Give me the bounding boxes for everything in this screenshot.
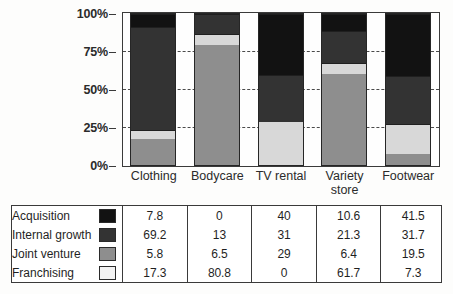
cell-tv-rental-joint-venture: 29 xyxy=(252,244,317,263)
y-axis-tick-label-50: 50% xyxy=(84,83,108,97)
cell-variety-store-franchising: 61.7 xyxy=(316,263,381,282)
series-label-internal-growth: Internal growth xyxy=(12,225,92,244)
cell-bodycare-acquisition: 0 xyxy=(187,206,252,225)
swatch-cell xyxy=(92,225,123,244)
cell-clothing-internal-growth: 69.2 xyxy=(123,225,188,244)
franchising-swatch xyxy=(99,266,116,280)
segment-internal-growth xyxy=(259,75,303,122)
segment-franchising xyxy=(131,139,175,165)
internal-growth-swatch xyxy=(99,228,116,242)
table-row: Internal growth69.2133121.331.7 xyxy=(12,225,445,244)
cell-footwear-franchising: 7.3 xyxy=(381,263,445,282)
cell-tv-rental-acquisition: 40 xyxy=(252,206,317,225)
segment-internal-growth xyxy=(195,14,239,34)
segment-acquisition xyxy=(386,14,430,76)
y-axis-tick-label-75: 75% xyxy=(84,45,108,59)
segment-acquisition xyxy=(131,14,175,27)
swatch-cell xyxy=(92,244,123,263)
bar-clothing xyxy=(130,13,176,166)
cell-variety-store-joint-venture: 6.4 xyxy=(316,244,381,263)
cell-bodycare-franchising: 80.8 xyxy=(187,263,252,282)
cell-tv-rental-franchising: 0 xyxy=(252,263,317,282)
cell-variety-store-internal-growth: 21.3 xyxy=(316,225,381,244)
cell-clothing-acquisition: 7.8 xyxy=(123,206,188,225)
series-label-acquisition: Acquisition xyxy=(12,206,92,225)
cell-footwear-joint-venture: 19.5 xyxy=(381,244,445,263)
segment-internal-growth xyxy=(131,27,175,130)
segment-joint-venture xyxy=(322,63,366,73)
cell-clothing-joint-venture: 5.8 xyxy=(123,244,188,263)
cell-tv-rental-internal-growth: 31 xyxy=(252,225,317,244)
segment-joint-venture xyxy=(259,122,303,165)
y-axis-tick-mark xyxy=(109,166,116,167)
joint-venture-swatch xyxy=(99,247,116,261)
data-table: Acquisition7.804010.641.5Internal growth… xyxy=(11,205,442,283)
bar-bodycare xyxy=(194,13,240,166)
chart-page: 100%75%50%25%0% ClothingBodycareTV renta… xyxy=(0,0,453,294)
bar-footwear xyxy=(385,13,431,166)
x-axis-label-line1: Bodycare xyxy=(186,170,250,184)
y-axis-tick-label-0: 0% xyxy=(90,159,108,173)
y-axis: 100%75%50%25%0% xyxy=(0,0,122,167)
segment-joint-venture xyxy=(131,130,175,140)
bar-variety-store xyxy=(321,13,367,166)
y-axis-tick-mark xyxy=(109,52,116,53)
x-axis-label-bodycare: Bodycare xyxy=(186,170,250,184)
table-body: Acquisition7.804010.641.5Internal growth… xyxy=(12,206,445,282)
x-axis-label-line1: Footwear xyxy=(376,170,440,184)
segment-franchising xyxy=(322,74,366,165)
segment-joint-venture xyxy=(195,34,239,45)
cell-bodycare-joint-venture: 6.5 xyxy=(187,244,252,263)
x-axis-label-line2: store xyxy=(313,184,377,198)
cell-footwear-acquisition: 41.5 xyxy=(381,206,445,225)
legend-value-table: Acquisition7.804010.641.5Internal growth… xyxy=(12,206,445,282)
y-axis-tick-label-100: 100% xyxy=(77,7,108,21)
cell-variety-store-acquisition: 10.6 xyxy=(316,206,381,225)
x-axis-label-line1: TV rental xyxy=(249,170,313,184)
segment-internal-growth xyxy=(322,31,366,64)
x-axis-label-line1: Variety xyxy=(313,170,377,184)
y-axis-tick-mark xyxy=(109,128,116,129)
acquisition-swatch xyxy=(99,209,116,223)
segment-acquisition xyxy=(259,14,303,75)
cell-bodycare-internal-growth: 13 xyxy=(187,225,252,244)
swatch-cell xyxy=(92,263,123,282)
plot-area xyxy=(122,12,440,167)
table-row: Acquisition7.804010.641.5 xyxy=(12,206,445,225)
table-row: Joint venture5.86.5296.419.5 xyxy=(12,244,445,263)
segment-internal-growth xyxy=(386,76,430,124)
y-axis-tick-mark xyxy=(109,90,116,91)
series-label-franchising: Franchising xyxy=(12,263,92,282)
x-axis-label-variety-store: Varietystore xyxy=(313,170,377,197)
swatch-cell xyxy=(92,206,123,225)
segment-franchising xyxy=(195,45,239,165)
x-axis-label-clothing: Clothing xyxy=(122,170,186,184)
cell-clothing-franchising: 17.3 xyxy=(123,263,188,282)
x-axis-label-footwear: Footwear xyxy=(376,170,440,184)
y-axis-tick-label-25: 25% xyxy=(84,121,108,135)
cell-footwear-internal-growth: 31.7 xyxy=(381,225,445,244)
x-axis-label-line1: Clothing xyxy=(122,170,186,184)
bar-tv-rental xyxy=(258,13,304,166)
series-label-joint-venture: Joint venture xyxy=(12,244,92,263)
table-row: Franchising17.380.8061.77.3 xyxy=(12,263,445,282)
stacked-bar-chart: 100%75%50%25%0% ClothingBodycareTV renta… xyxy=(0,0,453,200)
segment-acquisition xyxy=(322,14,366,31)
segment-joint-venture xyxy=(386,124,430,154)
y-axis-tick-mark xyxy=(109,14,116,15)
segment-franchising xyxy=(386,154,430,165)
x-axis-label-tv-rental: TV rental xyxy=(249,170,313,184)
